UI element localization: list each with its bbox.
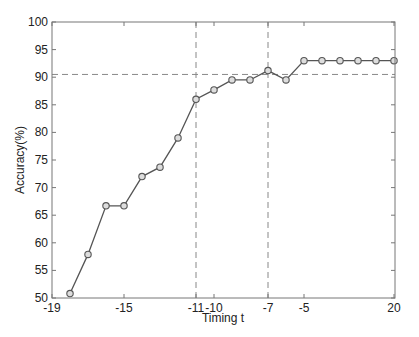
y-tick-label: 90 bbox=[35, 70, 49, 84]
data-point-marker bbox=[139, 173, 145, 179]
y-tick-label: 80 bbox=[35, 125, 49, 139]
data-point-marker bbox=[121, 203, 127, 209]
x-tick-label: -15 bbox=[115, 301, 133, 315]
x-tick-label: -5 bbox=[299, 301, 310, 315]
y-tick-label: 95 bbox=[35, 43, 49, 57]
data-point-marker bbox=[355, 57, 361, 63]
data-point-marker bbox=[211, 87, 217, 93]
data-point-marker bbox=[283, 77, 289, 83]
data-point-marker bbox=[85, 251, 91, 257]
y-tick-label: 100 bbox=[28, 15, 48, 29]
data-point-marker bbox=[175, 135, 181, 141]
data-point-marker bbox=[301, 57, 307, 63]
y-tick-label: 75 bbox=[35, 153, 49, 167]
data-point-marker bbox=[247, 77, 253, 83]
plot-area bbox=[52, 22, 397, 298]
data-point-marker bbox=[391, 57, 397, 63]
data-point-marker bbox=[67, 290, 73, 296]
y-tick-label: 55 bbox=[35, 263, 49, 277]
y-tick-label: 70 bbox=[35, 181, 49, 195]
x-axis-label: Timing t bbox=[202, 311, 245, 325]
y-tick-label: 85 bbox=[35, 98, 49, 112]
data-point-marker bbox=[373, 57, 379, 63]
data-point-marker bbox=[103, 203, 109, 209]
data-point-marker bbox=[319, 57, 325, 63]
data-point-marker bbox=[337, 57, 343, 63]
series-line bbox=[70, 61, 394, 294]
x-tick-label: -7 bbox=[263, 301, 274, 315]
accuracy-chart: 50556065707580859095100-19-15-11-10-7-52… bbox=[0, 0, 419, 337]
x-tick-label: 20 bbox=[387, 301, 401, 315]
data-point-marker bbox=[193, 96, 199, 102]
axes-frame bbox=[52, 22, 395, 298]
data-point-marker bbox=[265, 67, 271, 73]
data-point-marker bbox=[157, 164, 163, 170]
x-tick-label: -19 bbox=[43, 301, 61, 315]
y-axis-label: Accuracy(%) bbox=[13, 126, 27, 194]
y-tick-label: 60 bbox=[35, 236, 49, 250]
y-tick-label: 65 bbox=[35, 208, 49, 222]
data-point-marker bbox=[229, 77, 235, 83]
